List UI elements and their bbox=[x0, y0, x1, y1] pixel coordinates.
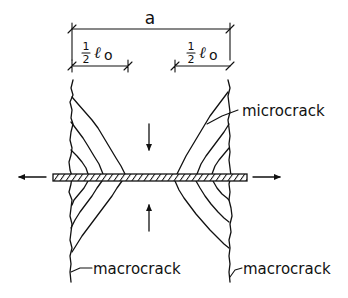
ell-symbol: ℓ bbox=[199, 43, 206, 62]
subscript-o: o bbox=[104, 47, 113, 63]
dimension-half-l0-right: 1 2 ℓ o bbox=[171, 40, 234, 72]
left-microcrack-upper-2 bbox=[71, 122, 103, 174]
ell-symbol: ℓ bbox=[94, 43, 101, 62]
left-microcrack-lower-3 bbox=[72, 181, 88, 205]
reinforcing-bar bbox=[53, 174, 247, 181]
right-microcrack-lower-2 bbox=[196, 181, 229, 222]
fraction-numerator: 1 bbox=[188, 40, 195, 53]
right-microcrack-lower-3 bbox=[213, 181, 229, 200]
microcrack-leader bbox=[207, 110, 238, 124]
left-microcrack-upper-3 bbox=[71, 150, 88, 174]
right-microcrack-upper-2 bbox=[197, 124, 229, 174]
fraction-denominator: 2 bbox=[83, 53, 90, 66]
right-microcrack-upper-3 bbox=[212, 148, 229, 174]
fraction-denominator: 2 bbox=[188, 53, 195, 66]
dimension-half-l0-left: 1 2 ℓ o bbox=[68, 40, 132, 72]
label-microcrack: microcrack bbox=[242, 102, 325, 120]
left-microcrack-lower-1 bbox=[72, 181, 122, 252]
label-a: a bbox=[145, 8, 155, 28]
left-microcrack-lower-2 bbox=[71, 181, 102, 228]
left-macrocrack-leader bbox=[71, 268, 92, 272]
subscript-o: o bbox=[209, 47, 218, 63]
label-macrocrack-left: macrocrack bbox=[93, 260, 181, 278]
right-macrocrack-leader bbox=[230, 268, 242, 277]
fraction-numerator: 1 bbox=[83, 40, 90, 53]
label-macrocrack-right: macrocrack bbox=[243, 260, 331, 278]
crack-diagram: a 1 2 ℓ o 1 2 ℓ o bbox=[0, 0, 348, 298]
